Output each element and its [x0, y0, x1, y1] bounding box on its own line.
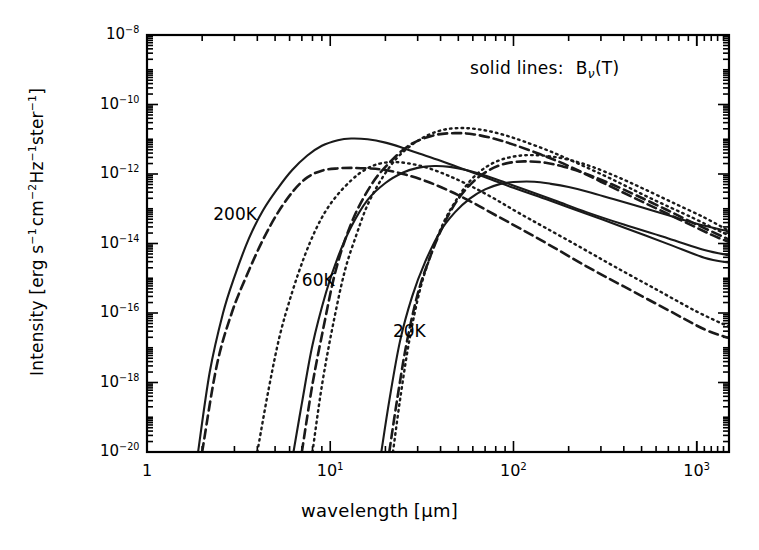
curve-dotted-20K [393, 155, 729, 452]
x-axis-label: wavelength[μm] [0, 500, 759, 521]
legend-symbol-subscript: ν [588, 67, 595, 81]
x-tick-label-3: 103 [683, 461, 710, 480]
curve-label-20K: 20K [393, 321, 426, 341]
legend-prefix: solid lines: [470, 58, 564, 78]
y-tick-label-6: 10−20 [100, 442, 139, 460]
chart-canvas [0, 0, 759, 550]
plot-frame [147, 35, 729, 452]
y-tick-label-4: 10−16 [100, 303, 139, 321]
x-axis-label-unit: [μm] [409, 500, 458, 521]
legend: solid lines:Bν(T) [470, 58, 619, 78]
curve-solid-200K [198, 138, 729, 452]
curve-label-60K: 60K [302, 270, 335, 290]
curve-dotted-60K [312, 128, 729, 452]
figure-root: Intensity [erg s−1 cm−2Hz−1ster−1] wavel… [0, 0, 759, 550]
x-axis-label-text: wavelength [301, 500, 409, 521]
y-tick-label-2: 10−12 [100, 164, 139, 182]
y-tick-label-5: 10−18 [100, 373, 139, 391]
axis-ticks [147, 35, 729, 452]
x-tick-label-0: 1 [142, 461, 152, 480]
legend-symbol-base: B [576, 58, 588, 78]
curve-group [198, 128, 729, 452]
y-tick-label-0: 10−8 [106, 25, 139, 43]
y-axis-label: Intensity [erg s−1 cm−2Hz−1ster−1] [27, 32, 47, 432]
y-tick-label-1: 10−10 [100, 95, 139, 113]
x-tick-label-1: 101 [317, 461, 344, 480]
curve-solid-20K [381, 182, 729, 452]
legend-symbol-arg: (T) [595, 58, 620, 78]
x-tick-label-2: 102 [500, 461, 527, 480]
y-tick-label-3: 10−14 [100, 234, 139, 252]
curve-label-200K: 200K [213, 204, 257, 224]
